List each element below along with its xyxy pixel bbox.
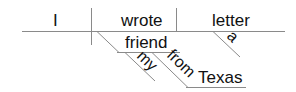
word-verb: wrote xyxy=(120,11,163,30)
sentence-diagram: I wrote letter friend Texas a my from xyxy=(0,0,296,92)
word-prepositional-object: Texas xyxy=(198,68,242,87)
word-preposition: from xyxy=(164,46,199,80)
word-subject: I xyxy=(53,11,58,30)
indirect-object-slant xyxy=(97,32,119,53)
word-direct-object: letter xyxy=(212,11,250,30)
